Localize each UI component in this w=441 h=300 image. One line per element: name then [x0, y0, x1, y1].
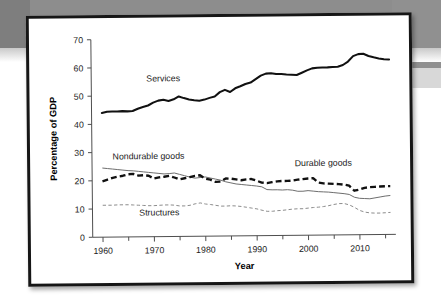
x-axis-line: [93, 234, 396, 237]
series-label-structures: Structures: [139, 207, 180, 217]
x-tick-label: 1990: [247, 244, 267, 254]
x-tick-label: 1960: [93, 246, 113, 256]
x-tick-label: 1970: [145, 245, 165, 255]
y-tick-label: 50: [74, 92, 84, 102]
y-tick-label: 30: [74, 148, 84, 158]
x-tick-label: 2010: [350, 243, 370, 253]
y-tick-label: 10: [75, 204, 85, 214]
series-label-nondurable-goods: Nondurable goods: [112, 151, 185, 162]
x-tick-label: 2000: [299, 244, 319, 254]
y-tick-label: 20: [75, 176, 85, 186]
y-tick-label: 70: [73, 35, 83, 45]
series-label-durable-goods: Durable goods: [295, 158, 353, 169]
x-tick-label: 1980: [196, 245, 216, 255]
y-tick-label: 40: [74, 120, 84, 130]
series-line-nondurable-goods: [102, 165, 390, 201]
y-tick-label: 0: [80, 233, 85, 243]
series-label-services: Services: [146, 73, 180, 83]
series-line-durable-goods: [102, 171, 390, 193]
y-tick-label: 60: [73, 63, 83, 73]
y-axis-title: Percentage of GDP: [48, 97, 59, 181]
series-line-services: [101, 54, 389, 113]
x-axis-title: Year: [235, 261, 255, 271]
plot-area: 010203040506070196019701980199020002010Y…: [29, 15, 412, 284]
y-axis-line: [91, 40, 93, 238]
figure-panel: 010203040506070196019701980199020002010Y…: [26, 12, 415, 287]
line-chart: 010203040506070196019701980199020002010Y…: [29, 15, 412, 284]
